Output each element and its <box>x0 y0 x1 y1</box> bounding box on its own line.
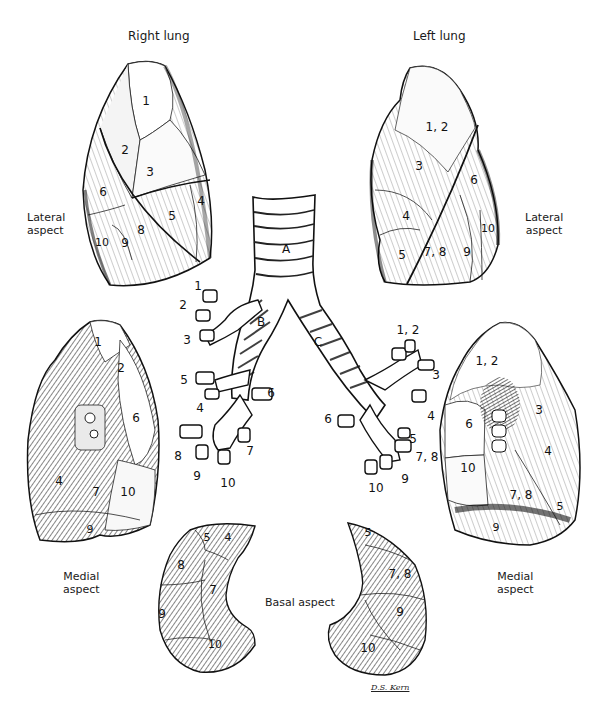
bronchus-branch-label: 5 <box>180 374 188 386</box>
right-lung-basal <box>159 524 255 673</box>
bronchus-branch-label: 7 <box>246 445 254 457</box>
medial-label-line2: aspect <box>63 583 100 596</box>
segment-label: 4 <box>544 445 552 457</box>
segment-label: 9 <box>396 606 404 618</box>
segment-label: 3 <box>415 160 423 172</box>
segment-label: 1 <box>94 336 102 348</box>
bronchus-branch-label: 3 <box>432 369 440 381</box>
lateral-label-line1: Lateral <box>27 211 65 224</box>
segment-label: 9 <box>158 608 166 620</box>
left-main-bronchus-label: C <box>314 336 322 348</box>
bronchus-branch-label: 2 <box>179 299 187 311</box>
bronchus-branch-label: 8 <box>174 450 182 462</box>
segment-label: 9 <box>493 522 500 534</box>
segment-label: 8 <box>177 559 185 571</box>
bronchus-branch-label: 4 <box>196 402 204 414</box>
segment-label: 2 <box>121 144 129 156</box>
segment-label: 5 <box>398 249 406 261</box>
segment-label: 1, 2 <box>476 355 499 367</box>
bronchus-branch-label: 9 <box>193 470 201 482</box>
medial-label-line1: Medial <box>497 570 534 583</box>
bronchus-branch-label: 1, 2 <box>397 324 420 336</box>
bronchus-branch-label: 1 <box>194 280 202 292</box>
medial-label-line2: aspect <box>497 583 534 596</box>
right-lung-medial <box>28 321 160 542</box>
segment-label: 8 <box>137 224 145 236</box>
segment-label: 9 <box>87 524 94 536</box>
segment-label: 7, 8 <box>424 246 447 258</box>
trachea-label: A <box>282 243 290 255</box>
lateral-label-line1: Lateral <box>525 211 563 224</box>
right-main-bronchus-label: B <box>257 316 265 328</box>
bronchus-branch-label: 9 <box>401 473 409 485</box>
segment-label: 3 <box>535 404 543 416</box>
segment-label: 4 <box>402 210 410 222</box>
bronchus-branch-label: 5 <box>409 433 417 445</box>
segment-label: 3 <box>146 166 154 178</box>
medial-aspect-label-left-lung: Medial aspect <box>497 570 534 596</box>
segment-label: 10 <box>460 462 475 474</box>
left-lung-title: Left lung <box>413 30 466 43</box>
bronchus-branch-label: 3 <box>183 334 191 346</box>
segment-label: 5 <box>168 210 176 222</box>
segment-label: 4 <box>225 532 232 544</box>
segment-label: 2 <box>117 362 125 374</box>
segment-label: 7 <box>209 584 217 596</box>
segment-label: 7, 8 <box>510 489 533 501</box>
lateral-aspect-label-left-lung: Lateral aspect <box>525 211 563 237</box>
bronchus-branch-label: 6 <box>324 413 332 425</box>
segment-label: 5 <box>557 501 564 513</box>
lateral-label-line2: aspect <box>525 224 563 237</box>
segment-label: 5 <box>204 532 211 544</box>
segment-label: 10 <box>95 237 109 249</box>
segment-label: 9 <box>121 237 129 249</box>
segment-label: 4 <box>197 195 205 207</box>
lateral-aspect-label-right-lung: Lateral aspect <box>27 211 65 237</box>
bronchus-branch-label: 7, 8 <box>416 451 439 463</box>
segment-label: 10 <box>481 223 495 235</box>
bronchus-branch-label: 10 <box>368 482 383 494</box>
segment-label: 10 <box>208 639 222 651</box>
right-lung-title: Right lung <box>128 30 190 43</box>
segment-label: 1, 2 <box>426 121 449 133</box>
segment-label: 7, 8 <box>389 568 412 580</box>
segment-label: 10 <box>360 642 375 654</box>
basal-aspect-label: Basal aspect <box>265 596 335 609</box>
lateral-label-line2: aspect <box>27 224 65 237</box>
segment-label: 7 <box>92 486 100 498</box>
artist-signature: D.S. Kern <box>371 683 409 692</box>
bronchus-branch-label: 4 <box>427 410 435 422</box>
segment-label: 6 <box>470 174 478 186</box>
segment-label: 9 <box>463 246 471 258</box>
left-lung-basal <box>328 523 426 675</box>
medial-label-line1: Medial <box>63 570 100 583</box>
medial-aspect-label-right-lung: Medial aspect <box>63 570 100 596</box>
bronchus-branch-label: 6 <box>267 387 275 399</box>
segment-label: 6 <box>465 418 473 430</box>
segment-label: 10 <box>120 486 135 498</box>
segment-label: 6 <box>132 412 140 424</box>
bronchus-branch-label: 10 <box>220 477 235 489</box>
bronchopulmonary-segments-figure: Right lung Left lung Lateral aspect Late… <box>0 0 598 706</box>
segment-label: 4 <box>55 475 63 487</box>
segment-label: 6 <box>99 186 107 198</box>
segment-label: 5 <box>365 527 372 539</box>
segment-label: 1 <box>142 95 150 107</box>
